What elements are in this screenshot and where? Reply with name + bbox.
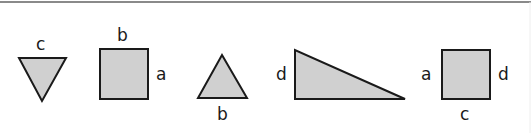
label-c-top: c [36,34,45,54]
shapes-diagram: c b a b d a d c [0,0,531,133]
square-1: b a [100,25,166,99]
label-a-left: a [421,64,431,84]
label-a-right: a [156,64,166,84]
label-d-right: d [498,64,509,84]
square-2: a d c [421,50,509,124]
label-d-left: d [276,64,287,84]
label-b-bottom: b [217,104,228,124]
right-triangle: d [276,50,405,99]
label-b-top: b [117,25,128,45]
upright-triangle: b [198,55,247,124]
inverted-triangle: c [19,34,66,101]
label-c-bottom: c [460,104,469,124]
